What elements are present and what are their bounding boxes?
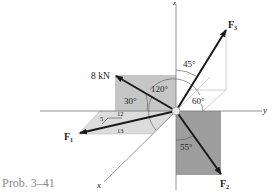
x-axis-label: x bbox=[96, 180, 101, 190]
slope-13-label: 13 bbox=[117, 127, 124, 134]
problem-caption: Prob. 3–41 bbox=[2, 176, 55, 191]
f3-label: F3 bbox=[228, 19, 237, 31]
origin-point bbox=[172, 107, 180, 115]
arc-45 bbox=[176, 70, 196, 76]
slope-5-label: 5 bbox=[100, 115, 103, 122]
8kn-label: 8 kN bbox=[91, 71, 110, 81]
f1-label: F1 bbox=[64, 131, 73, 143]
y-axis-label: y bbox=[262, 105, 267, 115]
angle-55-label: 55° bbox=[180, 142, 193, 152]
force-diagram: y z x F3 F1 F2 8 kN 45° 120° 30° 60° 55°… bbox=[0, 0, 271, 193]
angle-60-label: 60° bbox=[192, 96, 205, 106]
slope-12-label: 12 bbox=[117, 110, 124, 117]
angle-120-label: 120° bbox=[151, 84, 169, 94]
angle-45-label: 45° bbox=[183, 59, 196, 69]
f2-label: F2 bbox=[220, 178, 229, 190]
z-axis-label: z bbox=[172, 0, 176, 7]
f3-guide bbox=[203, 30, 226, 111]
angle-30-label: 30° bbox=[124, 96, 137, 106]
